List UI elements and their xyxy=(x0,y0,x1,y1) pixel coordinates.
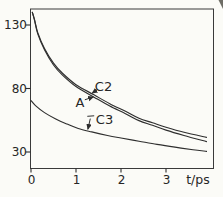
curve-c2 xyxy=(32,12,206,137)
y-tick-label: 130 xyxy=(4,18,27,32)
x-tick-label: 3 xyxy=(163,173,171,187)
decay-curves-plot: 13080300123t/ps C2AC3 xyxy=(0,0,223,197)
label-dash-c3 xyxy=(87,116,94,117)
y-tick-label: 30 xyxy=(12,145,27,159)
plot-frame xyxy=(31,9,214,169)
y-tick-label: 80 xyxy=(12,82,27,96)
x-tick-label: 1 xyxy=(73,173,81,187)
curve-label-c2: C2 xyxy=(95,79,112,94)
pointer-arrow-c3 xyxy=(88,119,90,130)
plot-frame-box xyxy=(31,9,214,169)
scan-artifact xyxy=(219,0,224,9)
curve-annotations: C2AC3 xyxy=(76,79,114,130)
figure: 13080300123t/ps C2AC3 xyxy=(0,0,223,197)
curve-label-c3: C3 xyxy=(96,112,113,127)
curve-a xyxy=(32,12,206,141)
curves xyxy=(31,12,207,151)
x-axis-label: t/ps xyxy=(186,172,210,187)
x-tick-label: 2 xyxy=(118,173,126,187)
curve-label-a: A xyxy=(76,95,85,110)
pointer-arrow-a xyxy=(85,97,94,100)
x-tick-label: 0 xyxy=(28,173,36,187)
